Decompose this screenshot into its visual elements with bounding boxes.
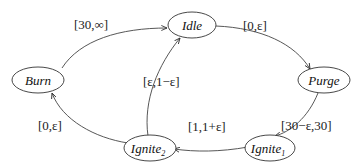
node-burn: Burn	[12, 67, 64, 93]
svg-text:Purge: Purge	[307, 73, 340, 88]
edge-label-ignite1-ignite2: [1,1+ε]	[188, 119, 226, 134]
edge-label-idle-purge: [0,ε]	[243, 18, 267, 33]
edge-label-purge-ignite1: [30−ε,30]	[281, 118, 332, 133]
edge-label-ignite2-idle: [ε,1−ε]	[143, 74, 180, 89]
svg-text:Ignite2: Ignite2	[130, 141, 165, 158]
edge-ignite2-to-burn	[52, 93, 128, 143]
svg-text:Ignite1: Ignite1	[250, 141, 285, 158]
node-ignite2: Ignite2	[124, 135, 176, 161]
svg-text:Idle: Idle	[181, 18, 202, 33]
edge-label-burn-idle: [30,∞]	[74, 17, 108, 32]
edge-ignite1-to-ignite2	[174, 147, 248, 151]
state-diagram: [30,∞] [0,ε] [30−ε,30] [1,1+ε] [ε,1−ε] […	[0, 0, 357, 164]
node-idle: Idle	[168, 12, 216, 38]
node-purge: Purge	[298, 67, 350, 93]
edge-label-ignite2-burn: [0,ε]	[38, 118, 62, 133]
svg-text:Burn: Burn	[25, 73, 51, 88]
edge-burn-to-idle	[62, 28, 167, 68]
node-ignite1: Ignite1	[245, 135, 295, 161]
